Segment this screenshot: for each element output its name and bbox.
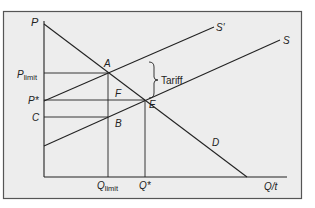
demand-label: D (212, 137, 219, 148)
c-label: C (32, 112, 40, 123)
point-a-label: A (103, 58, 111, 69)
point-b-label: B (115, 118, 122, 129)
supply-label: S (283, 35, 290, 46)
point-f-label: F (115, 88, 122, 99)
tariff-label: Tariff (161, 75, 183, 86)
x-axis-label: Q/t (264, 181, 279, 192)
y-axis-label: P (31, 16, 39, 28)
tariff-quota-diagram: P Q/t S′ S D A F E B Plimit P* C Qlimit … (0, 0, 315, 208)
p-star-label: P* (28, 95, 40, 106)
supply-tariff-label: S′ (216, 22, 226, 33)
q-star-label: Q* (139, 180, 152, 191)
point-e-label: E (149, 99, 156, 110)
